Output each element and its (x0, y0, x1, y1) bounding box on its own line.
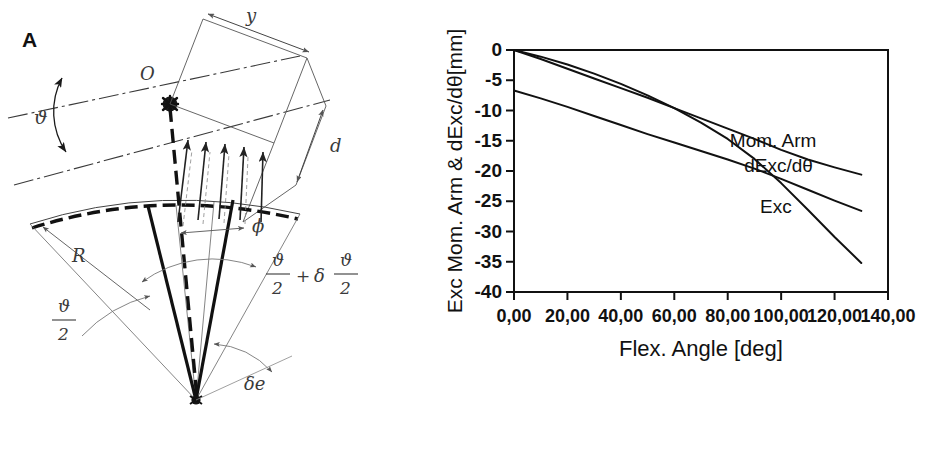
y-axis-tick-label: -5 (485, 69, 502, 90)
y-axis-tick-label: -30 (475, 221, 502, 242)
x-axis-tick-label: 40,00 (598, 306, 643, 326)
x-axis-tick-label: 20,00 (545, 306, 590, 326)
theta-half-plus-delta-arc (142, 259, 256, 282)
panel-b-chart: B 0-5-10-15-20-25-30-35-400,0020,0040,00… (440, 0, 928, 454)
d-dimension-line (297, 110, 323, 182)
delta-label: δ (314, 265, 325, 286)
force-arrow-field (178, 140, 263, 226)
thr-denominator: 2 (339, 278, 351, 298)
y-axis-tick-label: -10 (475, 100, 502, 121)
y-dimension-label: y (245, 5, 257, 26)
x-axis-tick-label: 140,00 (860, 306, 915, 326)
y-axis-tick-label: 0 (491, 39, 502, 60)
radius-label: R (71, 245, 86, 266)
series-annotation: dExc/dθ (744, 155, 813, 176)
theta-half-numerator: ϑ (58, 296, 70, 316)
x-axis-tick-label: 80,00 (705, 306, 750, 326)
panel-a-svg: ϑ O y d (0, 0, 440, 454)
d-dimension-label: d (330, 135, 342, 156)
theta-half-label-right: ϑ 2 (334, 250, 358, 298)
panel-a-diagram: A (0, 0, 440, 454)
phi-label: ϕ (252, 215, 264, 236)
x-axis-title: Flex. Angle [deg] (619, 336, 783, 361)
figure-container: A (0, 0, 928, 454)
theta-angle-arc (54, 78, 66, 152)
y-axis-tick-label: -40 (475, 281, 502, 302)
y-axis-title: Exc Mom. Arm & dExc/dθ[mm] (443, 29, 466, 314)
delta-e-arc (214, 344, 272, 372)
x-axis-tick-label: 0,00 (496, 306, 531, 326)
tpd-denominator: 2 (271, 278, 283, 298)
y-axis-tick-label: -25 (475, 190, 503, 211)
x-axis-tick-label: 100,00 (754, 306, 809, 326)
thr-numerator: ϑ (340, 250, 352, 270)
y-axis-tick-label: -35 (475, 251, 503, 272)
plot-frame (514, 50, 888, 292)
theta-label: ϑ (34, 106, 48, 128)
y-dimension-line (208, 14, 309, 52)
y-axis-tick-label: -15 (475, 130, 503, 151)
origin-label: O (140, 63, 155, 84)
x-axis-tick-label: 60,00 (652, 306, 697, 326)
phi-dimension-line (181, 228, 244, 233)
theta-half-label: ϑ 2 (52, 296, 76, 344)
series-annotation: Mom. Arm (730, 130, 817, 151)
x-axis-tick-label: 120,00 (807, 306, 862, 326)
chart-svg: 0-5-10-15-20-25-30-35-400,0020,0040,0060… (440, 0, 928, 454)
panel-a-letter: A (22, 28, 37, 52)
delta-e-label: δe (244, 373, 266, 394)
y-axis-tick-label: -20 (475, 160, 502, 181)
series-annotation: Exc (760, 196, 792, 217)
plus-sign: + (296, 266, 310, 286)
tpd-numerator: ϑ (272, 250, 284, 270)
theta-half-plus-delta-label: ϑ 2 + δ (266, 250, 325, 298)
theta-half-denominator: 2 (57, 324, 69, 344)
